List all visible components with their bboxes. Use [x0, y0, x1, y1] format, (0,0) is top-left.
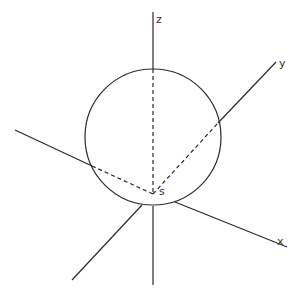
z-axis-label: z — [156, 13, 162, 26]
y-axis-label: y — [279, 57, 286, 70]
x-axis-hidden — [92, 166, 153, 194]
sphere-axes-diagram: z y x s — [0, 0, 302, 291]
y-axis-positive — [218, 62, 276, 123]
y-axis-hidden — [153, 123, 218, 194]
y-axis-negative — [72, 205, 142, 280]
x-axis-positive — [175, 202, 287, 247]
x-axis-label: x — [277, 235, 284, 248]
origin-label: s — [159, 185, 165, 198]
x-axis-negative — [15, 130, 92, 166]
